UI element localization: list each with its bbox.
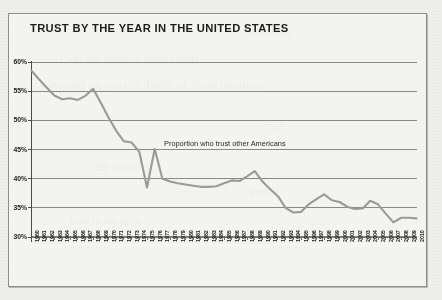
x-axis-tick-label: 1975: [149, 230, 155, 242]
x-axis-tick-label: 1990: [265, 230, 271, 242]
x-axis-tick-label: 2004: [372, 230, 378, 242]
y-axis-tick-label: 50%: [5, 116, 27, 123]
x-axis-tick-label: 2005: [380, 230, 386, 242]
x-axis-tick-label: 1968: [95, 230, 101, 242]
x-axis-tick-label: 2001: [349, 230, 355, 242]
x-axis-tick-label: 1983: [211, 230, 217, 242]
x-axis-tick-label: 1985: [226, 230, 232, 242]
x-axis-tick-label: 1969: [103, 230, 109, 242]
x-axis-tick-label: 1978: [172, 230, 178, 242]
x-axis-tick-label: 1971: [118, 230, 124, 242]
chart-title: TRUST BY THE YEAR IN THE UNITED STATES: [30, 22, 289, 34]
x-axis-tick-label: 1962: [49, 230, 55, 242]
x-axis-tick-label: 1989: [257, 230, 263, 242]
x-axis-tick-label: 1972: [126, 230, 132, 242]
x-axis-tick-label: 1999: [334, 230, 340, 242]
x-axis-tick-label: 2009: [411, 230, 417, 242]
x-axis-tick-label: 1984: [218, 230, 224, 242]
x-axis-tick-label: 2000: [342, 230, 348, 242]
x-axis-tick-label: 2002: [357, 230, 363, 242]
chart-annotation: Proportion who trust other Americans: [164, 139, 286, 148]
x-axis-tick-label: 1996: [311, 230, 317, 242]
x-axis-tick-label: 1967: [87, 230, 93, 242]
x-axis-tick-label: 1970: [111, 230, 117, 242]
chart-svg: [0, 0, 442, 300]
y-axis-tick-label: 60%: [5, 58, 27, 65]
x-axis-tick-label: 1981: [195, 230, 201, 242]
x-axis-tick-label: 1995: [303, 230, 309, 242]
x-axis-tick-label: 1994: [295, 230, 301, 242]
x-axis-tick-label: 1992: [280, 230, 286, 242]
x-axis-tick-label: 1980: [188, 230, 194, 242]
x-axis-tick-label: 1961: [41, 230, 47, 242]
x-axis-tick-label: 2006: [388, 230, 394, 242]
chart-plot-area: [0, 0, 442, 300]
x-axis-tick-label: 2003: [365, 230, 371, 242]
y-axis-tick-label: 40%: [5, 175, 27, 182]
x-axis-tick-label: 1991: [272, 230, 278, 242]
y-axis-tick-label: 35%: [5, 204, 27, 211]
x-axis-tick-label: 2010: [419, 230, 425, 242]
x-axis-tick-label: 1966: [80, 230, 86, 242]
y-axis-tick-label: 45%: [5, 146, 27, 153]
x-axis-tick-label: 1993: [288, 230, 294, 242]
x-axis-tick-label: 1979: [180, 230, 186, 242]
x-axis-tick-label: 1965: [72, 230, 78, 242]
x-axis-tick-label: 1977: [164, 230, 170, 242]
x-axis-tick-label: 1982: [203, 230, 209, 242]
y-axis-tick-label: 30%: [5, 233, 27, 240]
x-axis-tick-label: 1987: [241, 230, 247, 242]
x-axis-tick-label: 2007: [395, 230, 401, 242]
x-axis-tick-label: 1988: [249, 230, 255, 242]
x-axis-tick-label: 1974: [141, 230, 147, 242]
x-axis-tick-label: 1960: [34, 230, 40, 242]
x-axis-tick-label: 2008: [403, 230, 409, 242]
x-axis-tick-label: 1963: [57, 230, 63, 242]
x-axis-tick-label: 1997: [318, 230, 324, 242]
x-axis-tick-label: 1976: [157, 230, 163, 242]
x-axis-tick-label: 1964: [64, 230, 70, 242]
x-axis-tick-label: 1986: [234, 230, 240, 242]
x-axis-tick-label: 1998: [326, 230, 332, 242]
y-axis-tick-label: 55%: [5, 87, 27, 94]
x-axis-tick-label: 1973: [134, 230, 140, 242]
